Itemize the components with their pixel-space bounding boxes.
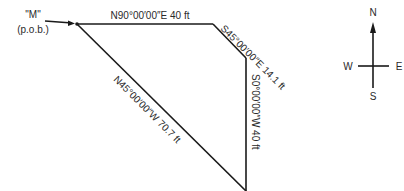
- pob-arrow-shaft: [45, 21, 72, 23]
- compass-north-label: N: [369, 7, 376, 18]
- course-label-3: S0°00′00″W 40 ft: [250, 74, 261, 150]
- pob-name: "M": [25, 9, 41, 20]
- course-labels: N90°00′00″E 40 ft S45°00′00″E 14.1 ft S0…: [111, 10, 288, 150]
- compass-south-label: S: [370, 91, 377, 102]
- course-line-4: [77, 24, 246, 191]
- north-arrow-icon: [370, 22, 376, 33]
- pob-arrow-head-icon: [68, 21, 75, 27]
- compass-east-label: E: [396, 61, 403, 72]
- course-label-1: N90°00′00″E 40 ft: [111, 10, 190, 21]
- traverse-diagram: "M" (p.o.b.) N90°00′00″E 40 ft S45°00′00…: [0, 0, 404, 191]
- traverse-lines: [77, 24, 246, 191]
- north-arrow-compass: N W E S: [343, 7, 402, 102]
- compass-west-label: W: [343, 61, 353, 72]
- course-label-4: N45°00′00″W 70.7 ft: [112, 74, 184, 146]
- pob-subtitle: (p.o.b.): [17, 24, 49, 35]
- pob-marker: "M" (p.o.b.): [17, 9, 79, 35]
